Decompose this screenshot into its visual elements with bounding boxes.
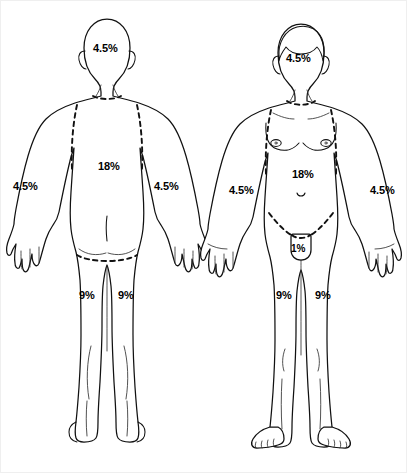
anterior-left-arm-percent-label: 4.5% [370, 185, 395, 196]
posterior-body-outline [7, 19, 208, 442]
anterior-right-arm-percent-label: 4.5% [229, 185, 254, 196]
anterior-foot-left [318, 427, 350, 448]
posterior-left-leg-percent-label: 9% [118, 290, 134, 301]
rule-of-nines-diagram: 4.5% 18% 4.5% 4.5% 9% 9% 4.5% 18% 4.5% 4… [0, 0, 407, 473]
posterior-right-leg-percent-label: 9% [79, 290, 95, 301]
posterior-trunk-percent-label: 18% [98, 161, 120, 172]
posterior-neck-line-right [96, 85, 101, 96]
posterior-neck-line-left [113, 85, 118, 96]
anterior-head-percent-label: 4.5% [286, 53, 311, 64]
anterior-right-leg-percent-label: 9% [276, 290, 292, 301]
body-figures-illustration [1, 1, 407, 473]
posterior-right-arm-percent-label: 4.5% [13, 181, 38, 192]
figure-posterior [7, 19, 208, 442]
figure-anterior [201, 24, 402, 448]
posterior-head-percent-label: 4.5% [93, 43, 118, 54]
anterior-foot-right [252, 427, 284, 448]
anterior-genitalia-percent-label: 1% [291, 244, 305, 254]
anterior-left-leg-percent-label: 9% [315, 290, 331, 301]
posterior-left-arm-percent-label: 4.5% [154, 181, 179, 192]
anterior-neck-line-right [290, 90, 295, 101]
anterior-neck-line-left [307, 90, 312, 101]
anterior-trunk-percent-label: 18% [292, 169, 314, 180]
